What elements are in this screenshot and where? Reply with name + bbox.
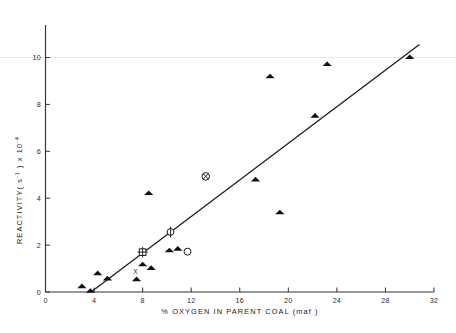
data-point-x-mark: X bbox=[133, 268, 138, 275]
y-tick-label: 4 bbox=[37, 194, 41, 203]
data-point-triangle bbox=[173, 246, 182, 251]
scatter-plot-figure: 048121620242832 0246810 X % OXYGEN IN PA… bbox=[0, 0, 456, 333]
x-axis-ticks: 048121620242832 bbox=[43, 288, 438, 305]
y-tick-label: 0 bbox=[37, 288, 41, 297]
data-point-triangle bbox=[132, 276, 141, 281]
plot-svg: 048121620242832 0246810 X % OXYGEN IN PA… bbox=[0, 0, 456, 333]
data-point-triangle bbox=[77, 284, 86, 289]
axes-group bbox=[46, 25, 435, 292]
y-axis-title: REACTIVITY( s-1 ) x 10-4 bbox=[14, 136, 24, 244]
y-tick-label: 6 bbox=[37, 147, 41, 156]
x-tick-label: 8 bbox=[141, 296, 145, 305]
data-point-triangle bbox=[251, 177, 260, 182]
x-tick-label: 28 bbox=[381, 296, 389, 305]
x-tick-label: 24 bbox=[333, 296, 341, 305]
x-tick-label: 32 bbox=[430, 296, 438, 305]
data-point-triangle bbox=[275, 210, 284, 215]
x-tick-label: 20 bbox=[284, 296, 292, 305]
data-point-triangle bbox=[266, 74, 275, 79]
data-point-triangle bbox=[165, 248, 174, 253]
y-tick-label: 8 bbox=[37, 100, 41, 109]
x-tick-label: 12 bbox=[187, 296, 195, 305]
x-tick-label: 0 bbox=[43, 296, 47, 305]
y-tick-label: 10 bbox=[33, 53, 41, 62]
x-axis-title: % OXYGEN IN PARENT COAL (maf ) bbox=[161, 307, 318, 316]
data-point-triangle bbox=[144, 190, 153, 195]
data-point-triangle bbox=[310, 113, 319, 118]
data-point-triangle bbox=[323, 61, 332, 66]
data-point-triangle bbox=[93, 271, 102, 276]
data-point-open-circle bbox=[184, 248, 191, 255]
x-tick-label: 4 bbox=[92, 296, 96, 305]
data-point-triangle bbox=[147, 265, 156, 270]
y-tick-label: 2 bbox=[37, 241, 41, 250]
y-axis-ticks: 0246810 bbox=[33, 53, 50, 297]
data-markers-group: X bbox=[77, 54, 414, 292]
x-tick-label: 16 bbox=[236, 296, 244, 305]
data-point-triangle bbox=[138, 262, 147, 267]
